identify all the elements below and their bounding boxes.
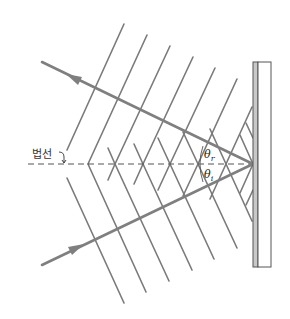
normal-label: 법선: [32, 148, 52, 161]
reflection-diagram: 법선 θr θi: [0, 0, 290, 319]
theta-reflected-label: θr: [204, 148, 216, 163]
incident-ray-arrow-icon: [68, 244, 84, 255]
reflected-ray-arrow-icon: [66, 74, 82, 85]
mirror: [253, 62, 271, 267]
normal-label-bracket-icon: [59, 152, 66, 163]
theta-incident-label: θi: [204, 168, 214, 183]
